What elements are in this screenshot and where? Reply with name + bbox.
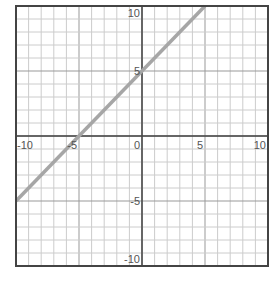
function-line xyxy=(16,6,205,201)
y-tick-label: -5 xyxy=(130,195,140,207)
y-tick-label: 10 xyxy=(128,7,140,19)
x-tick-label: 5 xyxy=(197,139,203,151)
y-tick-label: 5 xyxy=(134,65,140,77)
x-tick-label: -5 xyxy=(67,139,77,151)
x-tick-label: 10 xyxy=(254,139,266,151)
x-tick-label: -10 xyxy=(17,139,33,151)
y-tick-label: -10 xyxy=(124,253,140,265)
x-tick-label: 0 xyxy=(134,139,140,151)
coordinate-plane: -10-50510105-5-10 xyxy=(0,0,280,286)
plot-line xyxy=(16,6,205,201)
